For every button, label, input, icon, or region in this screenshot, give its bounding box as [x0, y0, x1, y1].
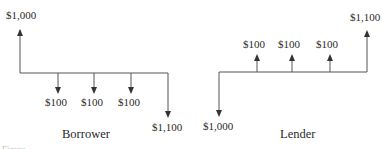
lender-receipt-label-1: $100 [243, 38, 265, 50]
cash-flow-diagram-graphic [0, 0, 382, 149]
arrow-down-icon [91, 87, 97, 94]
arrow-up-icon [254, 54, 260, 61]
borrower-receipt-label-0: $1,000 [6, 9, 36, 21]
borrower-payment-label-1: $100 [45, 96, 67, 108]
borrower-title: Borrower [62, 127, 110, 141]
arrow-up-icon [327, 54, 333, 61]
arrow-down-icon [165, 111, 171, 118]
arrow-down-icon [55, 87, 61, 94]
borrower-payment-label-2: $100 [81, 96, 103, 108]
lender-receipt-label-4: $1,100 [350, 11, 380, 23]
borrower-payment-label-4: $1,100 [152, 121, 182, 133]
arrow-down-icon [128, 87, 134, 94]
lender-receipt-label-2: $100 [278, 38, 300, 50]
lender-receipt-label-3: $100 [316, 38, 338, 50]
lender-payment-label-0: $1,000 [203, 120, 233, 132]
borrower-payment-label-3: $100 [118, 96, 140, 108]
arrow-down-icon [216, 110, 222, 117]
arrow-up-icon [17, 29, 23, 36]
lender-title: Lender [280, 127, 315, 141]
arrow-up-icon [364, 30, 370, 37]
figure-caption: Figure · · · · [2, 144, 47, 149]
arrow-up-icon [289, 54, 295, 61]
